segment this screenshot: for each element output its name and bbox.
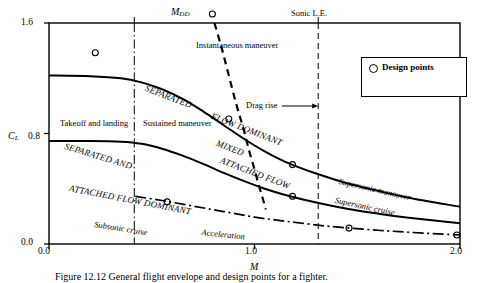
legend-box: Design points	[361, 57, 467, 97]
mdd-label-sub: DD	[179, 10, 189, 18]
figure-caption: Figure 12.12 General flight envelope and…	[55, 272, 328, 282]
y-axis-title-sub: L	[15, 134, 19, 142]
x-tick-1.0: 1.0	[245, 247, 257, 257]
x-tick-0.0: 0.0	[38, 247, 50, 257]
y-tick-1.6: 1.6	[21, 18, 33, 28]
figure-container: 1.6 0.8 0.0 CL 0.0 1.0 2.0 M MDD Sonic L…	[0, 0, 486, 283]
y-axis-title: CL	[8, 131, 19, 142]
y-axis-title-main: C	[8, 130, 15, 141]
drag-rise-label: Drag rise	[246, 101, 277, 110]
legend-circle-icon	[369, 64, 378, 73]
y-tick-0.0: 0.0	[21, 238, 33, 248]
callout-arrows	[282, 103, 318, 108]
sonic-le-label: Sonic L.E.	[291, 9, 327, 18]
y-tick-0.8: 0.8	[28, 132, 40, 142]
mdd-label: MDD	[171, 7, 189, 18]
sustained-maneuver-label: Sustained maneuver	[143, 118, 197, 129]
x-tick-2.0: 2.0	[450, 247, 462, 257]
instantaneous-maneuver-label: Instantaneous maneuver	[196, 41, 278, 50]
legend-label: Design points	[382, 63, 434, 72]
takeoff-landing-label: Takeoff and landing	[60, 118, 122, 129]
